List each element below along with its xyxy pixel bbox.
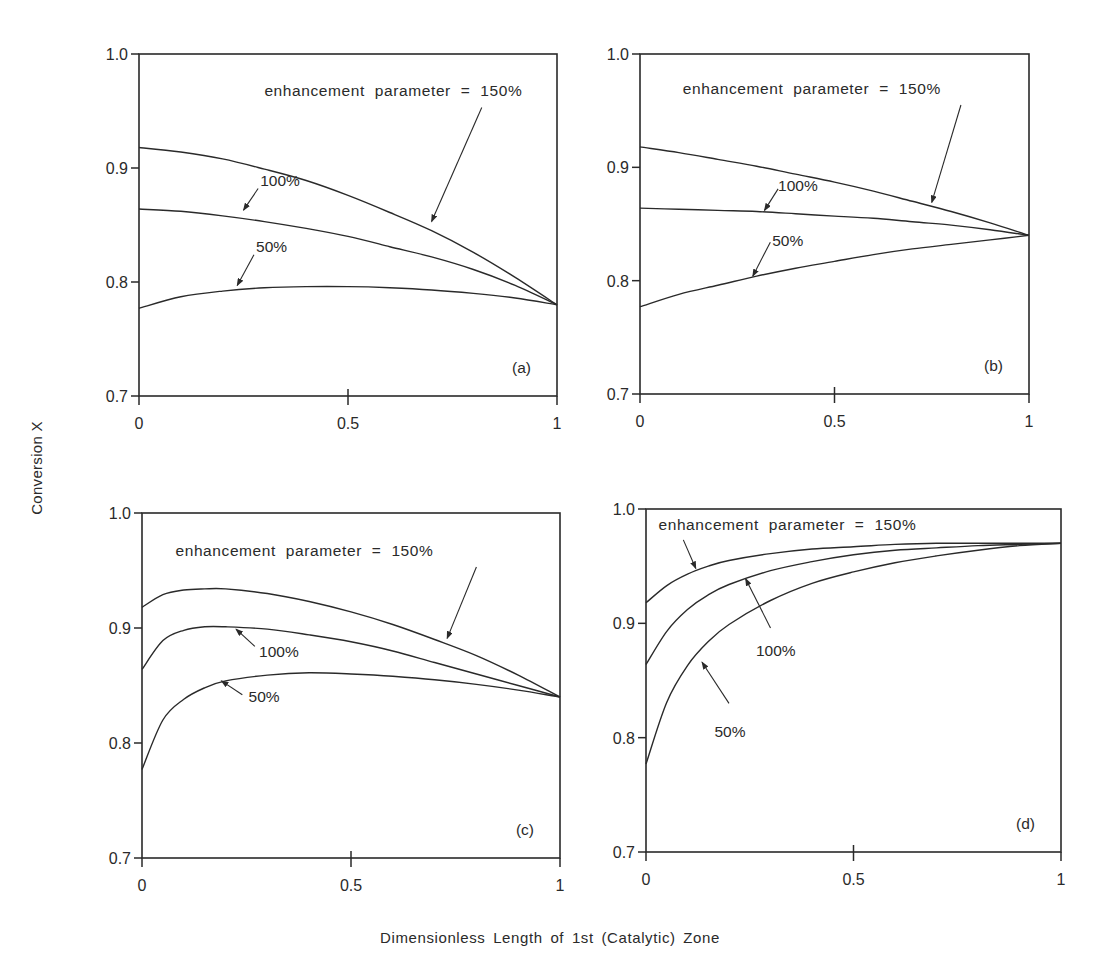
panel-c: 0.70.80.91.000.51enhancement parameter =…	[109, 505, 565, 894]
y-tick-label: 0.9	[607, 159, 629, 176]
curve-150pct	[139, 148, 557, 305]
y-tick-label: 0.7	[109, 850, 131, 867]
curve-150pct	[640, 147, 1029, 235]
series-label: 100%	[260, 172, 300, 189]
curve-100pct	[139, 209, 557, 305]
y-tick-label: 0.9	[109, 620, 131, 637]
y-tick-label: 0.7	[106, 388, 128, 405]
y-tick-label: 1.0	[109, 505, 131, 522]
y-tick-label: 0.8	[607, 273, 629, 290]
panel-letter: (a)	[512, 359, 531, 376]
x-tick-label: 1	[1057, 871, 1066, 888]
panel-a: 0.70.80.91.000.51enhancement parameter =…	[106, 46, 562, 432]
x-tick-label: 1	[1025, 413, 1034, 430]
plot-frame	[640, 54, 1029, 394]
panel-letter: (c)	[516, 821, 534, 838]
curve-150pct	[142, 588, 560, 697]
annotation-label: enhancement parameter = 150%	[175, 542, 433, 559]
arrow-icon	[237, 255, 254, 286]
series-label: 50%	[714, 723, 745, 740]
y-tick-label: 1.0	[106, 46, 128, 63]
series-label: 50%	[772, 232, 803, 249]
panel-d: 0.70.80.91.000.51enhancement parameter =…	[613, 501, 1066, 888]
series-label: 50%	[256, 238, 287, 255]
curve-50pct	[139, 286, 557, 308]
curve-50pct	[640, 235, 1029, 306]
series-label: 100%	[259, 643, 299, 660]
y-tick-label: 0.8	[613, 730, 635, 747]
panel-b: 0.70.80.91.000.51enhancement parameter =…	[607, 46, 1034, 430]
x-tick-label: 0	[636, 413, 645, 430]
curve-100pct	[640, 208, 1029, 235]
y-tick-label: 0.9	[613, 615, 635, 632]
y-tick-label: 1.0	[613, 501, 635, 518]
arrow-icon	[244, 189, 259, 211]
series-label: 50%	[249, 688, 280, 705]
x-tick-label: 1	[553, 415, 562, 432]
x-tick-label: 0.5	[842, 871, 864, 888]
curve-150pct	[646, 543, 1061, 603]
y-tick-label: 0.8	[109, 735, 131, 752]
curve-50pct	[142, 673, 560, 770]
x-tick-label: 0.5	[340, 877, 362, 894]
series-label: 100%	[756, 642, 796, 659]
arrow-icon	[432, 108, 482, 222]
figure: 0.70.80.91.000.51enhancement parameter =…	[0, 0, 1095, 957]
annotation-label: enhancement parameter = 150%	[683, 80, 941, 97]
curve-50pct	[646, 543, 1061, 764]
annotation-label: enhancement parameter = 150%	[658, 516, 916, 533]
arrow-icon	[683, 540, 695, 569]
y-tick-label: 0.8	[106, 274, 128, 291]
arrow-icon	[753, 242, 771, 276]
arrow-icon	[932, 105, 961, 202]
curve-100pct	[646, 543, 1061, 664]
y-axis-label: Conversion X	[28, 421, 45, 515]
series-label: 100%	[778, 177, 818, 194]
panel-letter: (d)	[1016, 815, 1035, 832]
arrow-icon	[221, 681, 242, 695]
arrow-icon	[236, 629, 255, 646]
chart-canvas: 0.70.80.91.000.51enhancement parameter =…	[0, 0, 1095, 957]
x-tick-label: 0	[138, 877, 147, 894]
arrow-icon	[447, 567, 476, 638]
y-tick-label: 0.7	[607, 386, 629, 403]
y-tick-label: 0.9	[106, 160, 128, 177]
plot-frame	[646, 509, 1061, 852]
plot-frame	[142, 513, 560, 858]
x-tick-label: 0	[642, 871, 651, 888]
x-tick-label: 0.5	[337, 415, 359, 432]
y-tick-label: 0.7	[613, 844, 635, 861]
x-tick-label: 1	[556, 877, 565, 894]
panel-letter: (b)	[984, 357, 1003, 374]
plot-frame	[139, 54, 557, 396]
x-axis-label: Dimensionless Length of 1st (Catalytic) …	[380, 929, 720, 946]
arrow-icon	[746, 579, 771, 628]
annotation-label: enhancement parameter = 150%	[264, 82, 522, 99]
x-tick-label: 0	[135, 415, 144, 432]
x-tick-label: 0.5	[823, 413, 845, 430]
arrow-icon	[702, 662, 729, 703]
y-tick-label: 1.0	[607, 46, 629, 63]
arrow-icon	[764, 189, 778, 211]
